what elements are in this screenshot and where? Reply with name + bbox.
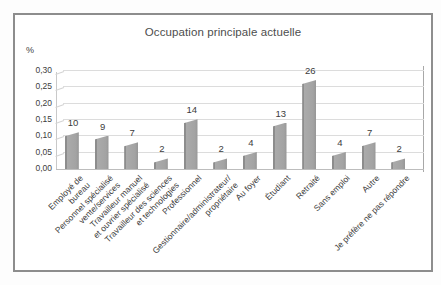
bar-value-label: 7 (367, 127, 372, 138)
bar-value-label: 4 (337, 137, 342, 148)
y-axis-unit-label: % (26, 45, 34, 55)
y-tick-label: 0,10 (14, 130, 52, 140)
bar (391, 158, 405, 169)
bar-value-label: 10 (68, 117, 79, 128)
bar (243, 152, 257, 169)
y-tick-label: 0,25 (14, 81, 52, 91)
gridline (63, 103, 424, 104)
category-label-text: Retraité (294, 173, 322, 201)
bar-value-label: 7 (130, 127, 135, 138)
gridline (63, 86, 424, 87)
y-tick-label: 0,00 (14, 163, 52, 173)
bar (65, 132, 79, 169)
bar-value-label: 2 (397, 143, 402, 154)
bar-value-label: 2 (159, 143, 164, 154)
chart-title: Occupation principale actuelle (13, 26, 433, 38)
chart-figure: Occupation principale actuelle % 0,300,2… (0, 0, 441, 285)
y-tick-label: 0,05 (14, 147, 52, 157)
bar-value-label: 13 (275, 108, 286, 119)
bar-value-label: 26 (305, 65, 316, 76)
bar (213, 158, 227, 169)
bar (302, 80, 316, 169)
bar (273, 123, 287, 169)
bar (124, 142, 138, 169)
category-label-text: Autre (360, 173, 381, 194)
bar (362, 142, 376, 169)
y-tick-label: 0,30 (14, 65, 52, 75)
bar-value-label: 2 (219, 143, 224, 154)
y-tick-label: 0,20 (14, 98, 52, 108)
bar-value-label: 14 (186, 104, 197, 115)
y-tick-label: 0,15 (14, 114, 52, 124)
plot-area: 1097214241326472 (56, 70, 424, 168)
bar (154, 158, 168, 169)
y-axis-labels: 0,300,250,200,150,100,050,00 (14, 70, 52, 180)
gridline (63, 70, 424, 71)
bar (332, 152, 346, 169)
x-axis-labels: Employé debureauPersonnel spécialisévent… (56, 171, 424, 271)
bar (184, 119, 198, 169)
gridline (63, 119, 424, 120)
category-label-text: Étudiant (263, 173, 292, 202)
bar-value-label: 4 (248, 137, 253, 148)
bar (95, 136, 109, 169)
bar-value-label: 9 (100, 121, 105, 132)
x-axis-line (56, 169, 424, 170)
